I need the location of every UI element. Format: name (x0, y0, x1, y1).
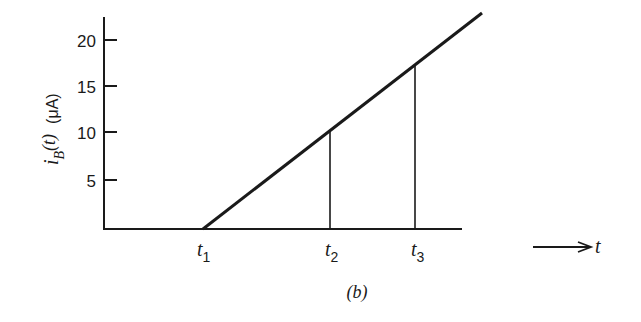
y-axis-label: iB(t)(μA) (39, 93, 67, 165)
ylabel-unit: (μA) (44, 93, 61, 124)
figure-caption: (b) (347, 282, 368, 303)
x-label-t1: t1 (197, 238, 211, 265)
x-label-t2: t2 (325, 238, 339, 265)
svg-text:iB(t)(μA): iB(t)(μA) (39, 93, 67, 165)
y-tick-label-5: 5 (87, 172, 96, 191)
y-tick-label-10: 10 (77, 124, 96, 143)
x-label-t3: t3 (411, 238, 425, 265)
y-tick-label-15: 15 (77, 78, 96, 97)
ylabel-arg: (t) (39, 134, 60, 151)
x-axis-label-t: t (595, 235, 601, 257)
ramp-current-chart: 20 15 10 5 iB(t)(μA) t1 t2 t3 t (b) (0, 0, 641, 322)
ramp-line (203, 13, 482, 229)
y-tick-label-20: 20 (77, 32, 96, 51)
